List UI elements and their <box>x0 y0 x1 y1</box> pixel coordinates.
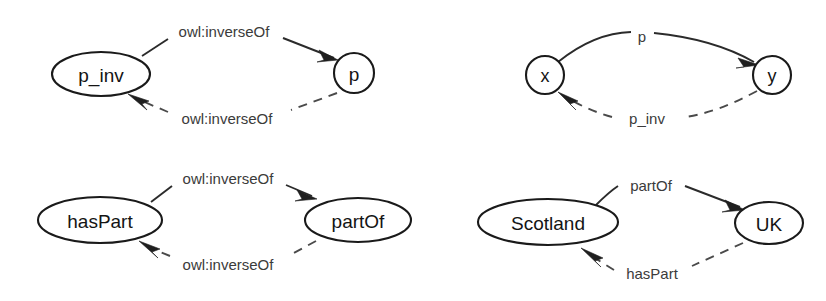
node-scotland-label: Scotland <box>511 213 585 234</box>
node-p-label: p <box>349 64 360 85</box>
node-x-label: x <box>541 66 550 86</box>
edge-haspart-to-partof-solid-tail <box>286 185 312 196</box>
edge-p-to-p-inv-dashed <box>291 93 337 110</box>
arrowhead-to-haspart <box>139 241 160 258</box>
edge-p-inv-to-p-solid <box>142 39 168 56</box>
edge-y-to-x-dashed <box>685 91 757 117</box>
edge-label-haspart: hasPart <box>626 265 679 282</box>
edge-label-partof: partOf <box>630 177 673 194</box>
node-haspart-label: hasPart <box>67 211 133 232</box>
diagram-root: p_inv p owl:inverseOf owl:inverseOf x y … <box>0 0 826 301</box>
node-p-inv-label: p_inv <box>78 65 124 87</box>
node-uk-label: UK <box>756 214 783 235</box>
panel-bottom-left: hasPart partOf owl:inverseOf owl:inverse… <box>38 170 411 273</box>
edge-haspart-to-partof-solid <box>151 186 172 202</box>
panel-bottom-right: Scotland UK partOf hasPart <box>478 177 803 282</box>
node-y-label: y <box>768 66 777 86</box>
edge-label-p: p <box>638 28 646 45</box>
panel-top-left: p_inv p owl:inverseOf owl:inverseOf <box>52 23 374 127</box>
node-partof-label: partOf <box>332 211 386 232</box>
edge-x-to-y-solid-tail <box>654 33 754 62</box>
edge-uk-to-scotland-dashed <box>692 243 743 266</box>
edge-label-owl-inverseof-bottom-left-2: owl:inverseOf <box>183 256 275 273</box>
arrowhead-to-p-inv <box>128 94 149 110</box>
arrowhead-to-p <box>317 50 338 62</box>
edge-x-to-y-solid <box>558 32 631 62</box>
edge-label-owl-inverseof-top-left: owl:inverseOf <box>179 23 271 40</box>
edge-label-p-inv: p_inv <box>629 110 665 127</box>
arrowhead-to-partof <box>295 190 317 201</box>
inverse-of-diagram-canvas: p_inv p owl:inverseOf owl:inverseOf x y … <box>0 0 826 301</box>
arrowhead-to-x <box>558 92 578 110</box>
edge-label-owl-inverseof-bottom-left: owl:inverseOf <box>182 110 274 127</box>
edge-label-owl-inverseof-top-left-2: owl:inverseOf <box>183 170 275 187</box>
edge-scotland-to-uk-solid <box>596 186 618 205</box>
arrowhead-to-scotland <box>581 248 603 267</box>
edge-partof-to-haspart-dashed <box>292 241 316 254</box>
panel-top-right: x y p p_inv <box>526 28 791 127</box>
